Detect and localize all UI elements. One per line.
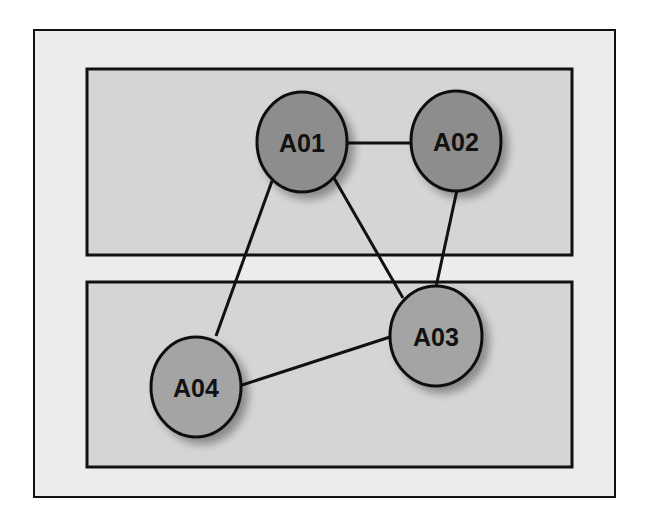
node-a04: A04	[151, 337, 241, 437]
node-label: A04	[173, 374, 219, 402]
node-label: A02	[433, 128, 479, 156]
node-a03: A03	[390, 286, 482, 386]
node-label: A01	[279, 129, 325, 157]
node-label: A03	[413, 323, 459, 351]
node-a01: A01	[257, 92, 347, 192]
node-a02: A02	[411, 91, 501, 191]
network-diagram: A01A02A03A04	[0, 0, 650, 520]
